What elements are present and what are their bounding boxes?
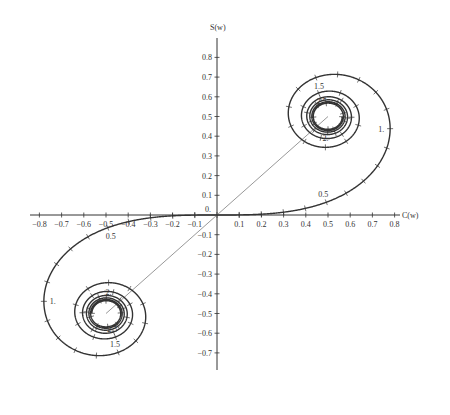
parameter-label: 1.5	[110, 340, 120, 349]
x-tick-label: −0.6	[77, 220, 92, 229]
y-tick-label: −0.5	[197, 310, 212, 319]
parameter-label: 1.5	[314, 82, 324, 91]
y-tick-label: −0.2	[197, 250, 212, 259]
y-tick-label: 0.1	[202, 191, 212, 200]
y-tick-label: −0.3	[197, 270, 212, 279]
x-tick-label: 0.4	[301, 220, 311, 229]
y-tick-label: −0.6	[197, 329, 212, 338]
y-tick-label: 0.8	[202, 53, 212, 62]
parameter-label: 1.	[50, 297, 56, 306]
x-tick-label: 0.6	[345, 220, 355, 229]
parameter-label: 2.	[322, 134, 328, 143]
y-tick-label: 0.6	[202, 93, 212, 102]
x-tick-label: 0.3	[279, 220, 289, 229]
y-axis-label: S(w)	[210, 23, 226, 32]
parameter-label: 2.5	[317, 97, 327, 106]
axes: −0.8−0.7−0.6−0.5−0.4−0.3−0.2−0.10.10.20.…	[30, 38, 400, 370]
parameter-label: 0.5	[106, 232, 116, 241]
x-tick-label: −0.1	[188, 220, 203, 229]
y-tick-label: 0.2	[202, 172, 212, 181]
origin-label: 0.	[205, 205, 211, 214]
x-tick-label: 0.8	[390, 220, 400, 229]
x-tick-label: 0.7	[367, 220, 377, 229]
x-axis-label: C(w)	[402, 211, 419, 220]
y-tick-label: 0.3	[202, 152, 212, 161]
parameter-label: 0.5	[318, 190, 328, 199]
x-tick-label: −0.8	[32, 220, 47, 229]
x-tick-label: 0.5	[323, 220, 333, 229]
y-tick-label: 0.5	[202, 113, 212, 122]
x-tick-label: 0.1	[234, 220, 244, 229]
x-tick-label: −0.7	[54, 220, 69, 229]
y-tick-label: 0.4	[202, 132, 212, 141]
x-tick-label: 0.2	[256, 220, 266, 229]
parameter-label: 1.	[378, 125, 384, 134]
x-tick-label: −0.2	[165, 220, 180, 229]
y-tick-label: −0.4	[197, 290, 212, 299]
parameter-label: 2.	[106, 288, 112, 297]
x-tick-label: −0.3	[143, 220, 158, 229]
y-tick-label: −0.1	[197, 231, 212, 240]
cornu-spiral-chart: −0.8−0.7−0.6−0.5−0.4−0.3−0.2−0.10.10.20.…	[0, 0, 450, 415]
parameter-label: 2.5	[107, 325, 117, 334]
y-tick-label: −0.7	[197, 349, 212, 358]
y-tick-label: 0.7	[202, 73, 212, 82]
